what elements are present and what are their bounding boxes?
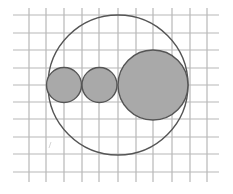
stray-mark — [49, 142, 51, 148]
small-circle-1 — [47, 68, 82, 103]
grid — [13, 8, 219, 182]
circles — [47, 15, 189, 155]
small-circle-2 — [82, 68, 117, 103]
circles-on-grid-diagram — [0, 0, 233, 194]
large-circle — [118, 50, 188, 120]
